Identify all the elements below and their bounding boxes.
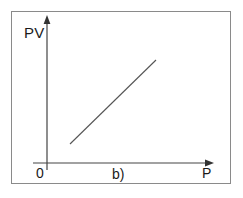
panel-label: b) [112, 167, 124, 181]
y-axis-arrowhead [44, 15, 51, 24]
data-line-series-1 [70, 60, 156, 144]
y-axis-label: PV [24, 25, 44, 40]
x-axis-label: P [202, 166, 211, 180]
origin-label: 0 [36, 166, 44, 180]
figure-root: PV 0 b) P [0, 0, 243, 198]
